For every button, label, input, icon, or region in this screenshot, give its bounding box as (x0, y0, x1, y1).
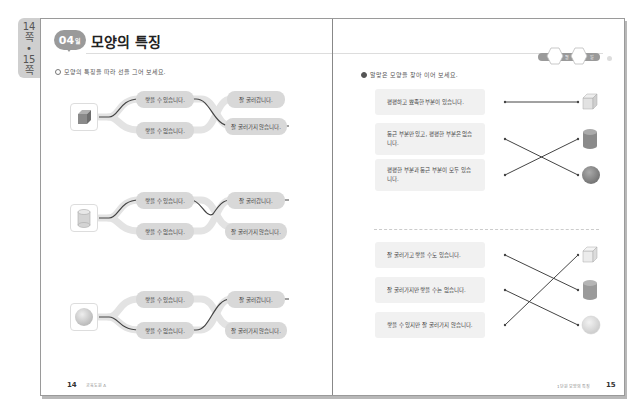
tab-page-label: 쪽 (25, 32, 34, 43)
tab-separator: • (26, 43, 32, 54)
matching-lines (41, 19, 626, 397)
page-range-tab: 14 쪽 • 15 쪽 (18, 18, 40, 78)
chapter-label: 1단원 모양의 특징 (557, 383, 590, 389)
sphere-icon[interactable] (581, 165, 601, 185)
cylinder-icon[interactable] (581, 128, 599, 150)
sphere-icon[interactable] (581, 315, 601, 335)
cube-icon[interactable] (581, 92, 599, 110)
right-page-number: 15 (606, 381, 616, 389)
cylinder-icon[interactable] (581, 279, 599, 301)
tab-page-start: 14 (23, 21, 36, 32)
cube-icon[interactable] (581, 245, 599, 263)
tab-page-label: 쪽 (25, 65, 34, 76)
book-spread: 04일 모양의 특징 모양의 특징을 따라 선을 그어 보세요. (40, 18, 625, 396)
tab-page-end: 15 (23, 54, 36, 65)
